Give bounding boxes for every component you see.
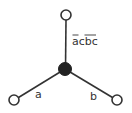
edge-center-top [66, 20, 67, 69]
label-part-a: a [72, 35, 79, 48]
node-right [112, 95, 122, 105]
edge-label-b: b [90, 90, 97, 103]
star-graph-diagram: acbc a b [0, 0, 132, 113]
node-center [59, 63, 72, 76]
node-top [61, 10, 71, 20]
edge-label-top: acbc [72, 35, 98, 48]
svg-text:acbc: acbc [72, 35, 98, 48]
edge-label-a: a [35, 88, 42, 101]
label-part-bc: bc [85, 35, 98, 48]
edge-center-right [65, 69, 113, 98]
edge-center-left [19, 69, 66, 98]
node-left [9, 95, 19, 105]
